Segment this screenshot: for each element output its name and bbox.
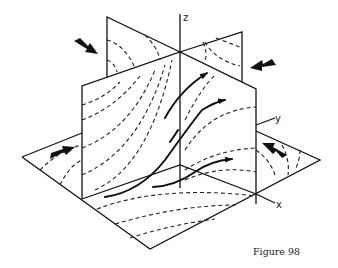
y-axis: y: [256, 113, 281, 125]
back-plane: [107, 17, 180, 77]
figure-diagram: z y x: [0, 0, 338, 268]
arrow-top-right-icon: [250, 59, 276, 71]
x-axis-label: x: [276, 199, 282, 210]
z-axis-label: z: [183, 12, 188, 23]
x-axis: x: [256, 194, 282, 210]
figure-caption: Figure 98: [253, 246, 300, 257]
arrow-left-icon: [50, 146, 75, 159]
flow-lines: [105, 73, 232, 197]
z-axis: z: [180, 12, 188, 188]
y-axis-label: y: [275, 113, 281, 124]
front-plane: [82, 52, 256, 204]
arrow-right-icon: [262, 143, 287, 158]
arrow-top-left-icon: [74, 38, 98, 54]
